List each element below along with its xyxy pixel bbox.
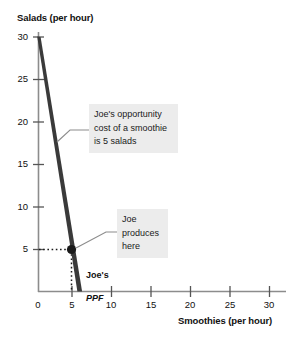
y-tick-label-30: 30 bbox=[6, 31, 28, 42]
ppf-label-line1: Joe's bbox=[86, 270, 109, 282]
y-tick-label-20: 20 bbox=[6, 116, 28, 127]
ppf-chart: Salads (per hour) Smoothies (per hour) bbox=[0, 0, 293, 337]
leader-line-opportunity-cost bbox=[57, 130, 89, 142]
x-tick-label-25: 25 bbox=[219, 299, 241, 310]
y-tick-label-5: 5 bbox=[6, 243, 28, 254]
x-tick-label-20: 20 bbox=[179, 299, 201, 310]
x-tick-label-0: 0 bbox=[27, 299, 49, 310]
y-tick-label-10: 10 bbox=[6, 201, 28, 212]
y-axis-title: Salads (per hour) bbox=[17, 12, 93, 23]
annotation-produces-here: Joe produces here bbox=[117, 209, 168, 258]
y-tick-label-25: 25 bbox=[6, 73, 28, 84]
point-marker-joe-produces bbox=[67, 245, 76, 254]
ppf-inline-label: Joe's PPF bbox=[86, 258, 109, 316]
x-tick-label-30: 30 bbox=[258, 299, 280, 310]
x-axis-title: Smoothies (per hour) bbox=[178, 315, 272, 326]
leader-line-produces-here bbox=[76, 232, 117, 248]
annotation-opportunity-cost: Joe's opportunity cost of a smoothie is … bbox=[89, 104, 178, 153]
plot-area bbox=[0, 0, 293, 337]
x-tick-label-15: 15 bbox=[140, 299, 162, 310]
ppf-label-line2: PPF bbox=[86, 293, 109, 305]
x-tick-label-5: 5 bbox=[61, 299, 83, 310]
y-tick-label-15: 15 bbox=[6, 158, 28, 169]
